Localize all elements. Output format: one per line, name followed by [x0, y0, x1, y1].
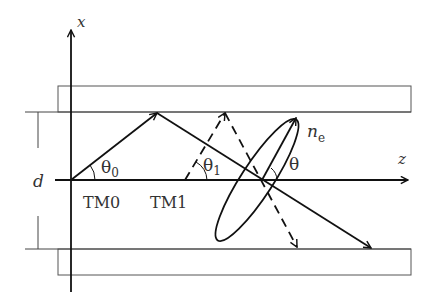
x-axis-label: x: [77, 13, 86, 31]
tm1-label: TM1: [150, 193, 187, 212]
ne-label: ne: [307, 121, 325, 145]
bottom-cladding: [58, 249, 411, 275]
thickness-label: d: [33, 171, 44, 191]
waveguide-diagram: d x z θ0 θ1 θ ne TM0 TM1: [0, 0, 437, 304]
tm0-label: TM0: [83, 193, 120, 212]
theta-label: θ: [289, 154, 299, 174]
theta0-label: θ0: [101, 157, 119, 180]
z-axis-label: z: [397, 150, 406, 168]
theta0-arc: [90, 165, 95, 180]
top-cladding: [58, 86, 411, 112]
theta1-label: θ1: [203, 155, 221, 178]
